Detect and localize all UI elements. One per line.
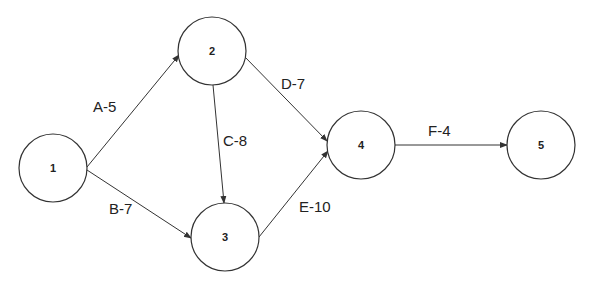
edge-activity-b: B-7 [87,170,191,238]
arrow-icon [259,151,328,237]
arrow-icon [87,170,191,238]
edge-activity-d: D-7 [244,56,327,141]
edge-activity-c: C-8 [213,85,247,203]
edge-label: D-7 [281,75,305,92]
edge-activity-e: E-10 [259,151,331,237]
edge-activity-f: F-4 [395,122,507,146]
edge-activity-a: A-5 [87,55,179,167]
node-5: 5 [507,111,575,179]
node-4: 4 [327,111,395,179]
node-3: 3 [191,203,259,271]
node-label: 5 [538,139,544,151]
edge-label: B-7 [109,200,132,217]
edges-group: A-5B-7C-8D-7E-10F-4 [87,55,507,238]
edge-label: E-10 [299,198,331,215]
nodes-group: 12345 [19,17,575,271]
node-label: 4 [358,139,365,151]
edge-label: F-4 [428,122,451,139]
network-diagram: A-5B-7C-8D-7E-10F-4 12345 [0,0,592,289]
edge-label: C-8 [223,132,247,149]
edge-label: A-5 [93,98,116,115]
node-label: 3 [222,231,228,243]
node-1: 1 [19,134,87,202]
node-label: 1 [50,162,56,174]
node-label: 2 [209,45,215,57]
node-2: 2 [178,17,246,85]
arrow-icon [244,56,327,141]
